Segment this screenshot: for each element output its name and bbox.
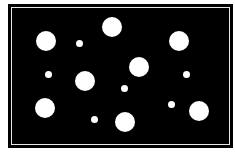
small-dot xyxy=(76,40,83,47)
large-dot xyxy=(35,98,55,118)
large-dot xyxy=(189,101,209,121)
small-dot xyxy=(183,71,190,78)
small-dot xyxy=(121,85,128,92)
large-dot xyxy=(169,31,189,51)
small-dot xyxy=(91,116,98,123)
small-dot xyxy=(168,101,175,108)
large-dot xyxy=(75,71,95,91)
large-dot xyxy=(129,57,149,77)
large-dot xyxy=(36,31,56,51)
large-dot xyxy=(102,17,122,37)
large-dot xyxy=(115,112,135,132)
small-dot xyxy=(45,71,52,78)
